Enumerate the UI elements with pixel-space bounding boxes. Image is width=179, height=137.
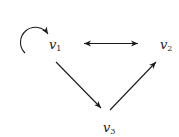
node-label-v2: v2: [160, 38, 172, 53]
self-loop-edge-v1: [20, 27, 48, 53]
node-v1-subscript: 1: [56, 44, 61, 53]
graph-diagram: v1 v2 v3: [0, 0, 179, 137]
edge-v3-v2: [110, 62, 156, 110]
node-v2-subscript: 2: [167, 44, 172, 53]
edge-v1-v3: [56, 62, 101, 108]
node-label-v1: v1: [49, 38, 61, 53]
graph-edges: [0, 0, 179, 137]
node-v3-subscript: 3: [110, 127, 115, 136]
node-label-v3: v3: [103, 121, 115, 136]
